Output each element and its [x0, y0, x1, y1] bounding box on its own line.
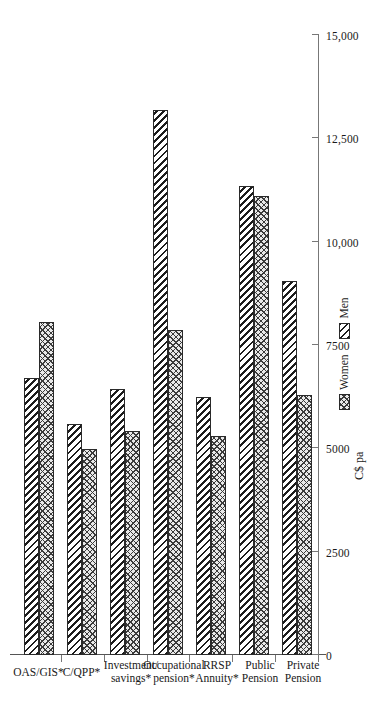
legend-label-men: Men: [338, 297, 350, 318]
value-axis-tick: [312, 34, 319, 35]
chart-legend: Women Men: [338, 297, 350, 410]
value-axis-tick: [312, 137, 319, 138]
rotated-figure-wrapper: 025005000750010,00012,50015,000 OAS/GIS*…: [0, 0, 391, 710]
bar-women: [168, 330, 183, 655]
value-axis-tick-label: 15,000: [326, 30, 359, 42]
bar-chart-figure: 025005000750010,00012,50015,000 OAS/GIS*…: [0, 0, 391, 710]
bar-men: [24, 378, 39, 655]
category-label: Private Pension: [258, 659, 348, 685]
value-axis-tick-label: 2500: [326, 547, 350, 559]
plot-area: 025005000750010,00012,50015,000 OAS/GIS*…: [18, 35, 318, 655]
value-axis-tick: [312, 241, 319, 242]
legend-swatch-women-icon: [339, 394, 350, 410]
value-axis-tick-label: 10,000: [326, 237, 359, 249]
bar-men: [110, 389, 125, 655]
value-axis-tick-label: 12,500: [326, 133, 359, 145]
bar-men: [153, 110, 168, 655]
bar-men: [239, 186, 254, 655]
value-axis-tick-label: 5000: [326, 443, 350, 455]
category-axis-tick: [61, 655, 62, 662]
bar-women: [254, 196, 269, 655]
value-axis-tick: [312, 344, 319, 345]
legend-item-women: Women: [338, 355, 350, 410]
value-axis-tick: [312, 551, 319, 552]
value-axis-title: C$ pa: [352, 452, 367, 480]
legend-label-women: Women: [338, 355, 350, 390]
value-axis-tick: [312, 447, 319, 448]
bar-women: [297, 395, 312, 655]
bar-women: [39, 322, 54, 655]
bar-men: [67, 424, 82, 655]
bar-women: [125, 431, 140, 655]
bar-women: [82, 449, 97, 655]
bar-men: [196, 397, 211, 655]
bar-men: [282, 281, 297, 655]
legend-item-men: Men: [338, 297, 350, 338]
bar-women: [211, 436, 226, 655]
legend-swatch-men-icon: [339, 323, 350, 339]
value-axis-line: [318, 35, 319, 655]
